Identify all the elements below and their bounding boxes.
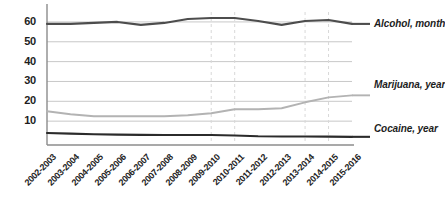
series-line (47, 133, 352, 137)
horizontal-gridlines (47, 22, 352, 121)
legend-label-cocaine: Cocaine, year (374, 123, 438, 134)
y-tick-label: 40 (10, 55, 36, 67)
axis-lines (47, 4, 354, 145)
legend-connector-lines (352, 24, 370, 137)
y-tick-label: 60 (10, 15, 36, 27)
legend-label-marijuana: Marijuana, year (374, 79, 445, 90)
y-tick-label: 20 (10, 94, 36, 106)
y-tick-label: 30 (10, 74, 36, 86)
y-tick-label: 50 (10, 35, 36, 47)
series-line (47, 95, 352, 116)
legend-label-alcohol: Alcohol, month (374, 18, 445, 29)
series-lines (47, 18, 352, 137)
y-tick-label: 10 (10, 114, 36, 126)
